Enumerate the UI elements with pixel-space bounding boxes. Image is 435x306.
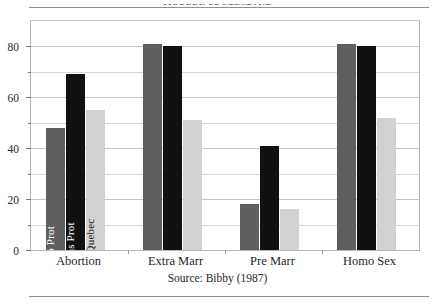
bar-lib-prot-homo-sex[interactable]: [337, 44, 356, 250]
x-axis-label-pre-marr: Pre Marr: [224, 254, 321, 269]
bar-lib-prot-abortion[interactable]: Lib Prot: [46, 128, 65, 250]
legend-label-lib-prot: Lib Prot: [46, 226, 56, 250]
figure-top-caption-text: MODERN PROTESTANT: [163, 2, 271, 5]
bar-group: [143, 21, 202, 250]
bar-cons-prot-homo-sex[interactable]: [357, 46, 376, 250]
bar-rc-quebec-homo-sex[interactable]: [377, 118, 396, 250]
x-axis-label-extra-marr: Extra Marr: [127, 254, 224, 269]
bar-rc-quebec-abortion[interactable]: RC Quebec: [86, 110, 105, 250]
y-axis-tick: 0: [26, 250, 31, 251]
bar-lib-prot-pre-marr[interactable]: [240, 204, 259, 250]
y-axis-tick-label: 80: [8, 41, 20, 53]
figure-top-caption: MODERN PROTESTANT: [0, 0, 435, 5]
bar-group: [240, 21, 299, 250]
y-axis-tick-minor: [28, 174, 31, 175]
y-axis-tick-minor: [28, 72, 31, 73]
y-axis-tick: 80: [26, 46, 31, 47]
figure-root: MODERN PROTESTANT 020406080 Lib ProtCons…: [0, 0, 435, 306]
bar-rc-quebec-extra-marr[interactable]: [183, 120, 202, 250]
bar-group: [337, 21, 396, 250]
y-axis-tick-minor: [28, 225, 31, 226]
y-axis-tick-minor: [28, 123, 31, 124]
y-axis-tick: 60: [26, 97, 31, 98]
y-axis-tick: 40: [26, 148, 31, 149]
bar-rc-quebec-pre-marr[interactable]: [280, 209, 299, 250]
bar-group: Lib ProtCons ProtRC Quebec: [46, 21, 105, 250]
x-axis-label-abortion: Abortion: [30, 254, 127, 269]
y-axis-tick: 20: [26, 199, 31, 200]
x-axis-label-homo-sex: Homo Sex: [321, 254, 418, 269]
bar-cons-prot-pre-marr[interactable]: [260, 146, 279, 250]
bar-cons-prot-extra-marr[interactable]: [163, 46, 182, 250]
y-axis-tick-label: 40: [8, 143, 20, 155]
y-axis-tick-label: 20: [8, 194, 20, 206]
top-horizontal-rule: [29, 7, 429, 8]
bar-cons-prot-abortion[interactable]: Cons Prot: [66, 74, 85, 250]
y-axis-tick-label: 60: [8, 92, 20, 104]
bar-lib-prot-extra-marr[interactable]: [143, 44, 162, 250]
source-note: Source: Bibby (1987): [0, 272, 435, 284]
bottom-horizontal-rule: [29, 296, 429, 297]
legend-label-rc-quebec: RC Quebec: [86, 219, 96, 250]
chart-plot-area: 020406080 Lib ProtCons ProtRC Quebec: [30, 20, 420, 251]
legend-label-cons-prot: Cons Prot: [66, 222, 76, 250]
y-axis-tick-label: 0: [13, 245, 19, 257]
